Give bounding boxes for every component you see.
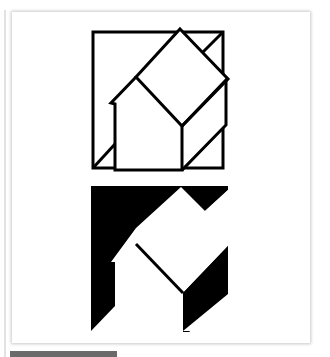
outline-diagonal-bottom-left xyxy=(93,144,115,168)
tangram-figure xyxy=(0,0,330,357)
outline-house xyxy=(111,29,228,170)
bottom-caption-bar xyxy=(10,351,117,357)
silhouette-puzzle xyxy=(88,180,234,342)
outline-diagonal-top-right xyxy=(203,32,223,52)
